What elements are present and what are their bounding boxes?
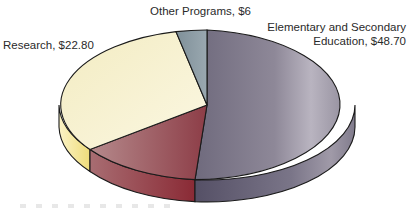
label-research: Research, $22.80 <box>3 38 94 52</box>
label-elementary-secondary: Elementary and Secondary Education, $48.… <box>267 20 406 49</box>
label-elementary-line1: Elementary and Secondary <box>267 20 406 34</box>
label-other-programs: Other Programs, $6 <box>150 4 251 18</box>
cropped-caption-fragment <box>20 204 180 208</box>
label-elementary-line2: Education, $48.70 <box>267 34 406 48</box>
